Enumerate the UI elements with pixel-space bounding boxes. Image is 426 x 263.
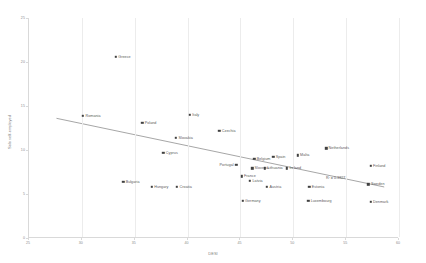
y-axis-title: Solo self-employed [7,87,12,177]
data-point-label: Denmark [373,200,388,204]
data-point-label: Germany [245,199,261,203]
data-point [122,180,124,182]
gridline-vertical [346,18,347,237]
r-squared-annotation: R² = 0.3827 [326,176,345,180]
data-point-label: Romania [85,114,100,118]
x-axis-tick-mark [187,238,188,240]
data-point-label: Poland [145,121,157,125]
gridline-vertical [399,18,400,237]
data-point [286,167,288,169]
y-axis-tick-label: 15 [0,104,25,108]
data-point [162,151,164,153]
data-point-label: Portugal [220,163,234,167]
data-point-label: Luxembourg [311,199,332,203]
data-point-label: Spain [276,155,286,159]
data-point [296,154,298,156]
data-point [176,186,178,188]
data-point-label: Lithuania [267,166,282,170]
data-point-label: Slovakia [179,136,193,140]
x-axis-tick-mark [292,238,293,240]
gridline-vertical [293,18,294,237]
x-axis-title: DESI [0,251,426,256]
data-point [115,56,117,58]
data-point-label: Ireland [290,166,302,170]
x-axis-tick-mark [134,238,135,240]
y-axis-tick-label: 10 [0,148,25,152]
data-point-label: Cyprus [166,151,178,155]
data-point-label: Italy [192,113,199,117]
data-point [150,186,152,188]
x-axis-tick-mark [398,238,399,240]
scatter-chart: Solo self-employed DESI 2530354045505560… [0,0,426,263]
y-axis-tick-mark [26,62,28,63]
data-point-label: Finland [373,164,385,168]
data-point [218,129,220,131]
data-point-label: Malta [300,153,309,157]
data-point-label: Austria [269,185,281,189]
data-point [249,180,251,182]
y-axis-tick-label: 5 [0,192,25,196]
data-point [369,201,371,203]
data-point [175,136,177,138]
x-axis-tick-label: 55 [330,241,360,245]
y-axis-tick-mark [26,194,28,195]
data-point [189,114,191,116]
data-point [308,186,310,188]
data-point [272,156,274,158]
data-point [251,167,253,169]
data-point-label: Latvia [253,179,263,183]
data-point-label: Hungary [154,185,168,189]
data-point [325,147,327,149]
y-axis-tick-mark [26,150,28,151]
x-axis-tick-label: 40 [172,241,202,245]
data-point [82,114,84,116]
data-point [307,200,309,202]
x-axis-tick-label: 60 [383,241,413,245]
data-point-label: Bulgaria [126,180,140,184]
data-point-label: Croatia [180,185,192,189]
x-axis-tick-label: 35 [119,241,149,245]
x-axis-tick-mark [239,238,240,240]
data-point-label: Belgium [257,157,271,161]
y-axis-tick-mark [26,106,28,107]
x-axis-tick-mark [81,238,82,240]
data-point-label: Estonia [312,185,325,189]
x-axis-tick-label: 25 [13,241,43,245]
data-point [367,183,369,185]
data-point-label: Czechia [222,129,236,133]
y-axis-tick-label: 0 [0,236,25,240]
y-axis-tick-label: 25 [0,16,25,20]
y-axis-tick-mark [26,238,28,239]
gridline-vertical [82,18,83,237]
x-axis-tick-label: 30 [66,241,96,245]
data-point [240,175,242,177]
gridline-vertical [135,18,136,237]
data-point-label: Netherlands [329,146,349,150]
data-point-label: France [244,174,256,178]
x-axis-tick-mark [345,238,346,240]
data-point [235,164,237,166]
data-point [369,165,371,167]
y-axis-tick-label: 20 [0,60,25,64]
gridline-vertical [240,18,241,237]
data-point [253,158,255,160]
plot-area [28,18,398,238]
data-point [264,167,266,169]
data-point [266,186,268,188]
trendline [29,18,399,238]
data-point [241,200,243,202]
x-axis-tick-mark [28,238,29,240]
data-point-label: Sweden [371,182,385,186]
gridline-vertical [188,18,189,237]
y-axis-tick-mark [26,18,28,19]
data-point-label: Greece [118,55,130,59]
x-axis-tick-label: 50 [277,241,307,245]
data-point [141,122,143,124]
x-axis-tick-label: 45 [224,241,254,245]
